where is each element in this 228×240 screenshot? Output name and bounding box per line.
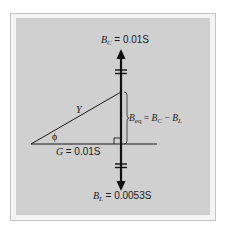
bc-label: BC = 0.01S bbox=[101, 35, 149, 47]
phi-label: ϕ bbox=[52, 132, 57, 142]
y-label: Y bbox=[76, 105, 82, 115]
arrow-up-icon bbox=[117, 49, 126, 59]
beq-label: Beq = BC − BL bbox=[129, 114, 182, 125]
admittance-vector bbox=[31, 92, 121, 144]
bl-label: BL = 0.0053S bbox=[93, 191, 151, 203]
g-label: G = 0.01S bbox=[56, 147, 101, 157]
